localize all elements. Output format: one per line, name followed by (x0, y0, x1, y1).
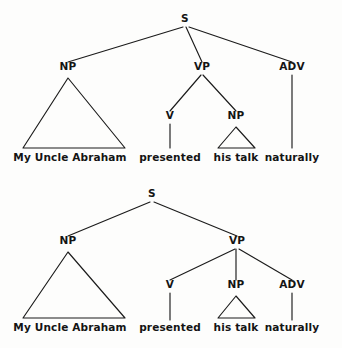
branch-vp-to-v (170, 249, 235, 280)
node-label-v: V (166, 109, 175, 121)
terminal-t3: his talk (214, 151, 260, 163)
node-label-vp: VP (194, 60, 210, 72)
phrase-triangle-np1 (23, 252, 125, 318)
node-label-s: S (181, 12, 189, 24)
terminal-group: My Uncle Abrahampresentedhis talknatural… (13, 151, 319, 163)
node-label-adv: ADV (279, 278, 305, 290)
terminal-t2: presented (139, 151, 201, 163)
terminal-t4: naturally (265, 151, 320, 163)
node-label-v: V (166, 278, 175, 290)
terminal-t1: My Uncle Abraham (13, 151, 126, 163)
syntax-tree-adverb-on-vp: SNPVPVNPADVMy Uncle Abrahampresentedhis … (0, 174, 342, 348)
syntax-tree-figure: SNPVPADVVNPMy Uncle Abrahampresentedhis … (0, 0, 342, 348)
node-label-np2: NP (228, 278, 245, 290)
branch-s-to-vp (154, 202, 237, 236)
triangle-group (23, 78, 255, 148)
syntax-tree-adverb-on-s: SNPVPADVVNPMy Uncle Abrahampresentedhis … (0, 0, 342, 174)
branch-s-to-np1 (68, 202, 150, 236)
branch-s-to-adv (189, 27, 292, 62)
branch-s-to-np1 (68, 27, 183, 62)
triangle-group (23, 252, 255, 318)
terminal-t1: My Uncle Abraham (13, 321, 126, 333)
node-label-np1: NP (60, 60, 77, 72)
node-label-vp: VP (229, 234, 245, 246)
terminal-t3: his talk (214, 321, 260, 333)
branch-group (68, 27, 292, 148)
branch-vp-to-np2 (203, 75, 236, 111)
node-label-s: S (148, 187, 156, 199)
terminal-t4: naturally (265, 321, 320, 333)
branch-group (68, 202, 292, 320)
phrase-triangle-np1 (23, 78, 125, 148)
phrase-triangle-np2 (218, 127, 255, 148)
terminal-t2: presented (139, 321, 201, 333)
node-label-np2: NP (228, 109, 245, 121)
branch-vp-to-adv (239, 249, 292, 280)
node-label-group: SNPVPADVVNP (60, 12, 306, 121)
branch-vp-to-v (170, 75, 201, 111)
node-label-adv: ADV (279, 60, 305, 72)
phrase-triangle-np2 (218, 296, 255, 318)
terminal-group: My Uncle Abrahampresentedhis talknatural… (13, 321, 319, 333)
node-label-np1: NP (60, 234, 77, 246)
branch-s-to-vp (186, 27, 202, 62)
